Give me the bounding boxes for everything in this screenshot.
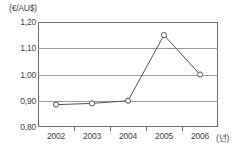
x-axis-unit-label: (년) — [216, 131, 229, 143]
y-axis-tick: 0,90 — [0, 96, 36, 106]
x-axis-tick-label: 2004 — [108, 131, 148, 141]
x-axis-tick-label: 2006 — [180, 131, 220, 141]
y-axis-tick-label: 0,80 — [2, 122, 36, 132]
y-axis-tick-label: 1,10 — [2, 43, 36, 53]
y-axis-tick: 0,80 — [0, 122, 36, 132]
y-axis-tick: 1,20 — [0, 17, 36, 27]
gridline — [38, 75, 218, 76]
y-axis-tick-label: 0,90 — [2, 96, 36, 106]
x-axis-tick-label: 2005 — [144, 131, 184, 141]
y-axis-tick-label: 1,00 — [2, 70, 36, 80]
x-axis-tick-label: 2002 — [36, 131, 76, 141]
y-axis-tick: 1,10 — [0, 43, 36, 53]
line-chart: (€/AU$) 1,201,101,000,900,80 20022003200… — [0, 0, 238, 150]
gridline — [38, 48, 218, 49]
y-axis-unit-label: (€/AU$) — [9, 3, 37, 13]
y-axis-tick-label: 1,20 — [2, 17, 36, 27]
y-axis-tick: 1,00 — [0, 70, 36, 80]
x-axis-tick-label: 2003 — [72, 131, 112, 141]
gridline — [38, 101, 218, 102]
